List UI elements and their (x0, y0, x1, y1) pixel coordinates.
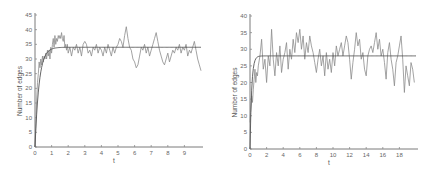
x-tick-label: 2 (67, 150, 71, 156)
y-tick-label: 5 (244, 129, 248, 135)
y-tick-label: 10 (240, 113, 247, 119)
fitted-curve-line (250, 56, 416, 149)
y-tick-label: 5 (29, 129, 33, 135)
chart-right: 0510152025303540024681012141618tNumber o… (231, 13, 418, 166)
y-tick-label: 40 (25, 27, 32, 33)
x-tick-label: 8 (166, 150, 170, 156)
y-tick-label: 0 (29, 144, 33, 150)
chart-left: 0510152025303540450123456789tNumber of e… (16, 12, 203, 164)
y-tick-label: 0 (244, 146, 248, 152)
y-tick-label: 20 (25, 85, 32, 91)
simulation-series-line (250, 29, 414, 122)
y-axis-title: Number of edges (231, 67, 239, 118)
y-tick-label: 35 (25, 41, 32, 47)
y-tick-label: 35 (240, 30, 247, 36)
x-tick-label: 16 (379, 152, 386, 158)
x-axis-title: t (328, 159, 330, 166)
y-axis-title: Number of edges (16, 65, 24, 116)
x-tick-label: 5 (116, 150, 120, 156)
y-tick-label: 30 (240, 46, 247, 52)
y-tick-label: 45 (25, 12, 32, 18)
x-tick-label: 6 (298, 152, 302, 158)
simulation-series-line (35, 27, 201, 147)
x-tick-label: 4 (282, 152, 286, 158)
x-tick-label: 4 (100, 150, 104, 156)
x-tick-label: 9 (183, 150, 187, 156)
x-tick-label: 8 (315, 152, 319, 158)
x-tick-label: 0 (248, 152, 252, 158)
x-tick-label: 14 (363, 152, 370, 158)
y-tick-label: 25 (25, 71, 32, 77)
x-tick-label: 6 (133, 150, 137, 156)
y-tick-label: 15 (25, 100, 32, 106)
y-tick-label: 10 (25, 115, 32, 121)
x-tick-label: 2 (265, 152, 269, 158)
x-tick-label: 12 (346, 152, 353, 158)
y-tick-label: 20 (240, 80, 247, 86)
y-tick-label: 15 (240, 96, 247, 102)
x-tick-label: 3 (83, 150, 87, 156)
x-tick-label: 7 (150, 150, 154, 156)
fitted-curve-line (35, 47, 201, 147)
x-axis-title: t (113, 157, 115, 164)
y-tick-label: 40 (240, 13, 247, 19)
chart-figure: 0510152025303540450123456789tNumber of e… (0, 0, 434, 174)
x-tick-label: 1 (50, 150, 54, 156)
y-tick-label: 30 (25, 56, 32, 62)
x-tick-label: 0 (33, 150, 37, 156)
y-tick-label: 25 (240, 63, 247, 69)
x-tick-label: 18 (396, 152, 403, 158)
x-tick-label: 10 (330, 152, 337, 158)
